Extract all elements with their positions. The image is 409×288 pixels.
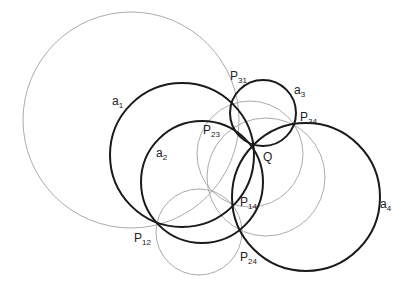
circle-diagram <box>0 0 409 288</box>
label-Q: Q <box>263 151 272 166</box>
label-a2: a2 <box>156 147 167 162</box>
label-a3: a3 <box>294 84 305 99</box>
thin-circle-large <box>23 12 239 228</box>
thin-circle-bottom <box>156 189 242 275</box>
label-P24: P24 <box>240 251 257 266</box>
label-P14: P14 <box>240 196 257 211</box>
label-P23: P23 <box>203 124 220 139</box>
label-P31: P31 <box>230 70 247 85</box>
label-P12: P12 <box>134 232 151 247</box>
label-a4: a4 <box>380 198 391 213</box>
label-a1: a1 <box>112 95 123 110</box>
label-P34: P34 <box>300 111 317 126</box>
